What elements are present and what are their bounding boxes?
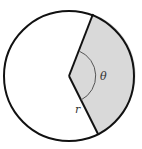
radius-label: r (75, 103, 81, 116)
sector-diagram: θ r (0, 0, 142, 149)
theta-label: θ (100, 70, 107, 83)
